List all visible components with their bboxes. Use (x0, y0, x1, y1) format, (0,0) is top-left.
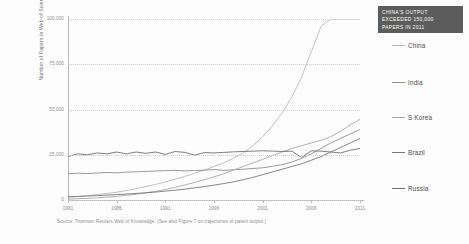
callout-line-1: CHINA'S OUTPUT (382, 9, 459, 16)
x-tick-mark (263, 200, 264, 203)
gridline-y (68, 110, 360, 111)
x-tick-label: 1981 (63, 206, 74, 211)
series-line-russia (68, 148, 360, 157)
y-tick-label: 100,000 (47, 16, 64, 21)
x-tick-mark (117, 200, 118, 203)
legend-swatch-icon (392, 82, 405, 83)
series-line-china (68, 19, 360, 197)
series-line-brazil (68, 138, 360, 196)
chart-legend: ChinaIndiaS KoreaBrazilRussia (392, 36, 469, 206)
callout-line-2: EXCEEDED 150,000 (382, 16, 459, 23)
gridline-y (68, 19, 360, 20)
series-line-s-korea (68, 119, 360, 199)
x-tick-label: 2001 (257, 206, 268, 211)
legend-swatch-icon (392, 45, 405, 46)
gridline-y (68, 155, 360, 156)
legend-swatch-icon (392, 152, 405, 153)
gridline-y (68, 64, 360, 65)
source-caption: Source: Thomson Reuters Web of Knowledge… (57, 219, 266, 224)
x-tick-label: 1986 (111, 206, 122, 211)
x-tick-mark (214, 200, 215, 203)
y-tick-label: 0 (61, 197, 64, 202)
plot-area (68, 19, 360, 200)
legend-swatch-icon (392, 117, 405, 118)
x-tick-mark (165, 200, 166, 203)
x-tick-mark (360, 200, 361, 203)
x-tick-label: 2011 (355, 206, 365, 211)
legend-item-brazil[interactable]: Brazil (392, 149, 425, 156)
legend-item-russia[interactable]: Russia (392, 185, 428, 192)
y-tick-label: 25,000 (49, 152, 64, 157)
x-tick-label: 1996 (209, 206, 220, 211)
figure-chart-paper-output: Number of Papers in Web of Science, Annu… (0, 0, 469, 244)
x-tick-mark (68, 200, 69, 203)
legend-label: China (408, 42, 425, 49)
x-tick-label: 1991 (160, 206, 171, 211)
x-axis-tick-labels: 1981198619911996200120062011 (68, 203, 368, 217)
y-tick-label: 75,000 (49, 61, 64, 66)
legend-label: India (408, 79, 423, 86)
legend-item-china[interactable]: China (392, 42, 425, 49)
legend-label: S Korea (408, 114, 432, 121)
callout-china-output: CHINA'S OUTPUT EXCEEDED 150,000 PAPERS I… (378, 6, 463, 33)
x-tick-label: 2006 (306, 206, 317, 211)
legend-item-india[interactable]: India (392, 79, 423, 86)
legend-label: Brazil (408, 149, 425, 156)
legend-swatch-icon (392, 188, 405, 189)
y-tick-label: 50,000 (49, 107, 64, 112)
legend-label: Russia (408, 185, 428, 192)
y-axis-tick-labels: 100,00075,00050,00025,0000 (24, 0, 64, 210)
series-line-india (68, 129, 360, 173)
callout-line-3: PAPERS IN 2011 (382, 24, 459, 31)
x-tick-mark (311, 200, 312, 203)
legend-item-s-korea[interactable]: S Korea (392, 114, 432, 121)
